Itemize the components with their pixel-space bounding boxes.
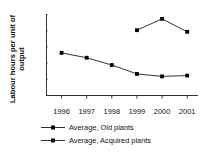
x-axis-tick-label: 2001	[172, 107, 202, 116]
legend-item-acquired-plants: Average, Acquired plants	[40, 134, 205, 147]
chart-svg	[46, 14, 198, 105]
chart-legend: Average, Old plants Average, Acquired pl…	[40, 121, 205, 147]
legend-key-acquired-plants	[40, 134, 66, 147]
legend-label-old-plants: Average, Old plants	[66, 123, 134, 132]
data-point-marker	[60, 51, 64, 55]
y-axis-label-line1: Labour hours per unit of	[8, 15, 17, 103]
series-line-2	[137, 19, 187, 32]
data-point-marker	[160, 17, 164, 21]
legend-label-acquired-plants: Average, Acquired plants	[66, 136, 151, 145]
data-point-marker	[160, 74, 164, 78]
x-axis-tick-labels: 199619971998199920002001	[40, 107, 205, 119]
series-group	[60, 17, 189, 78]
y-axis-label-container: Labour hours per unit of output	[0, 0, 34, 118]
axes-group	[46, 14, 198, 99]
plot-area	[46, 14, 198, 105]
data-point-marker	[135, 28, 139, 32]
data-point-marker	[185, 74, 189, 78]
data-point-marker	[185, 30, 189, 34]
data-point-marker	[85, 56, 89, 60]
chart-figure: Labour hours per unit of output 19961997…	[0, 0, 205, 153]
y-axis-label-line2: output	[17, 15, 26, 103]
legend-item-old-plants: Average, Old plants	[40, 121, 205, 134]
series-line-1	[62, 53, 188, 76]
data-point-marker	[110, 63, 114, 67]
y-axis-label: Labour hours per unit of output	[8, 15, 27, 103]
legend-key-old-plants	[40, 121, 66, 134]
data-point-marker	[135, 72, 139, 76]
